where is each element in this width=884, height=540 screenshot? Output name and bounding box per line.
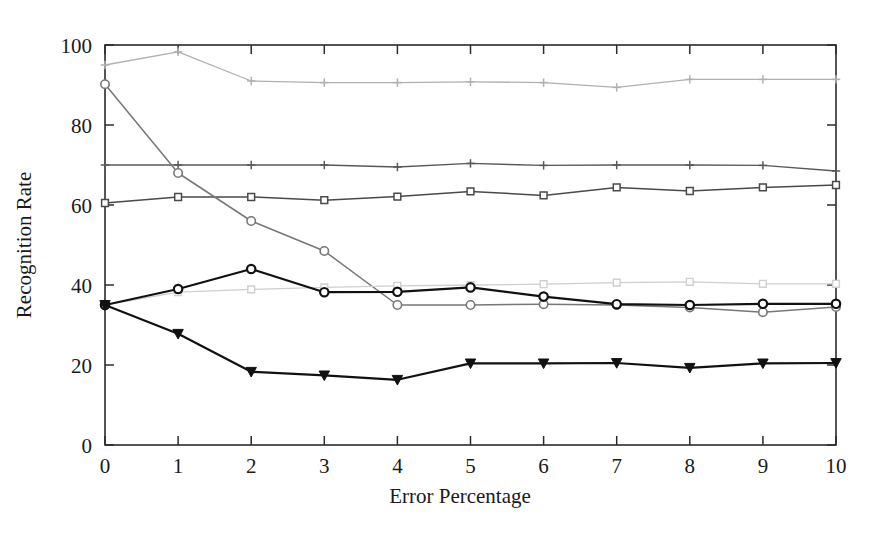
- data-point-square-marker: [248, 286, 255, 293]
- data-point-circle-marker: [466, 283, 474, 291]
- figure-container: 012345678910 020406080100 Error Percenta…: [0, 0, 884, 540]
- y-tick-label: 0: [82, 434, 93, 458]
- data-point-circle-marker: [174, 169, 182, 177]
- data-point-circle-marker: [759, 300, 767, 308]
- data-point-square-marker: [540, 192, 547, 199]
- data-point-circle-marker: [466, 301, 474, 309]
- x-tick-label: 7: [611, 454, 622, 478]
- data-point-circle-marker: [686, 301, 694, 309]
- data-point-square-marker: [540, 281, 547, 288]
- x-tick-label: 9: [758, 454, 769, 478]
- x-tick-label: 5: [465, 454, 476, 478]
- data-point-circle-marker: [247, 217, 255, 225]
- figure-background: [0, 0, 884, 540]
- y-tick-label: 100: [61, 34, 93, 58]
- data-point-circle-marker: [247, 265, 255, 273]
- data-point-square-marker: [760, 280, 767, 287]
- x-tick-label: 3: [319, 454, 330, 478]
- x-tick-label: 0: [100, 454, 111, 478]
- x-tick-label: 8: [685, 454, 696, 478]
- recognition-rate-line-chart: 012345678910 020406080100 Error Percenta…: [0, 0, 884, 540]
- x-axis-title: Error Percentage: [389, 484, 531, 508]
- x-tick-label: 4: [392, 454, 403, 478]
- data-point-circle-marker: [539, 292, 547, 300]
- y-tick-label: 20: [71, 354, 92, 378]
- y-tick-label: 40: [71, 274, 92, 298]
- y-tick-label: 60: [71, 194, 92, 218]
- data-point-circle-marker: [174, 285, 182, 293]
- y-axis-title: Recognition Rate: [12, 172, 36, 318]
- data-point-square-marker: [686, 278, 693, 285]
- data-point-square-marker: [833, 280, 840, 287]
- data-point-circle-marker: [320, 288, 328, 296]
- data-point-circle-marker: [613, 300, 621, 308]
- x-tick-label: 6: [538, 454, 549, 478]
- data-point-square-marker: [467, 188, 474, 195]
- data-point-square-marker: [394, 193, 401, 200]
- data-point-square-marker: [175, 194, 182, 201]
- data-point-square-marker: [760, 184, 767, 191]
- data-point-circle-marker: [393, 301, 401, 309]
- data-point-square-marker: [248, 194, 255, 201]
- x-tick-label: 2: [246, 454, 257, 478]
- data-point-circle-marker: [101, 80, 109, 88]
- data-point-square-marker: [102, 200, 109, 207]
- data-point-square-marker: [686, 188, 693, 195]
- y-tick-label: 80: [71, 114, 92, 138]
- data-point-square-marker: [321, 197, 328, 204]
- data-point-circle-marker: [393, 288, 401, 296]
- data-point-circle-marker: [320, 247, 328, 255]
- data-point-circle-marker: [759, 308, 767, 316]
- x-tick-label: 10: [826, 454, 847, 478]
- data-point-square-marker: [833, 182, 840, 189]
- data-point-square-marker: [613, 184, 620, 191]
- data-point-square-marker: [613, 279, 620, 286]
- x-tick-label: 1: [173, 454, 184, 478]
- data-point-circle-marker: [832, 300, 840, 308]
